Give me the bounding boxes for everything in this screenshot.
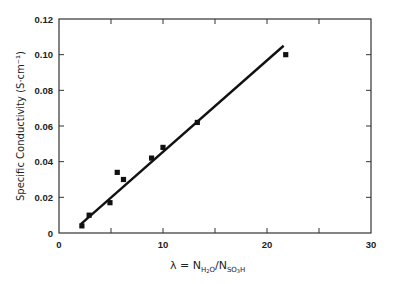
- fit-line: [81, 46, 284, 224]
- equals-sign: =: [177, 259, 193, 272]
- data-point-marker: [283, 52, 288, 57]
- x-tick-label: 30: [366, 239, 377, 250]
- y-tick-label: 0.02: [35, 192, 54, 203]
- data-series: [79, 46, 288, 229]
- y-tick-label: 0.08: [35, 85, 54, 96]
- n-sulfonic: N: [219, 259, 227, 272]
- x-axis-title: λ = NH2O/NSO3H: [170, 259, 245, 274]
- data-point-marker: [107, 200, 112, 205]
- sub-h2: H: [240, 266, 245, 274]
- x-tick-label: 0: [56, 239, 61, 250]
- y-tick-label: 0.10: [35, 49, 54, 60]
- y-axis-title: Specific Conductivity (S·cm⁻¹): [15, 51, 26, 201]
- tick-labels: 010203000.020.040.060.080.100.12: [35, 14, 377, 251]
- data-point-marker: [79, 223, 84, 228]
- y-tick-label: 0: [48, 228, 53, 239]
- x-tick-label: 20: [262, 239, 273, 250]
- data-point-marker: [115, 170, 120, 175]
- y-tick-label: 0.04: [35, 156, 54, 167]
- data-point-marker: [195, 120, 200, 125]
- x-tick-label: 10: [158, 239, 169, 250]
- y-tick-label: 0.12: [35, 14, 54, 25]
- n-water: N: [193, 259, 201, 272]
- data-point-marker: [87, 213, 92, 218]
- data-point-marker: [160, 145, 165, 150]
- data-point-marker: [121, 177, 126, 182]
- sub-so: SO: [227, 266, 237, 274]
- data-point-marker: [149, 156, 154, 161]
- y-tick-label: 0.06: [35, 121, 54, 132]
- conductivity-chart: 010203000.020.040.060.080.100.12 Specifi…: [0, 0, 393, 284]
